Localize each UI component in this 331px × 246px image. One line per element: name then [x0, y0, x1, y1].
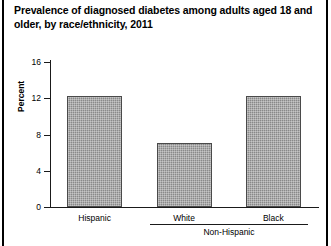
y-axis-tick-label: 0 [5, 203, 41, 212]
page-rule-left [2, 0, 4, 246]
x-axis-line [50, 207, 319, 208]
page-rule-right [326, 0, 328, 246]
bar [157, 143, 212, 207]
bar [246, 96, 301, 207]
y-axis-tick-label: 16 [5, 58, 41, 67]
group-bracket-label: Non-Hispanic [169, 227, 289, 237]
y-axis-tick-label-wrap: 4 [0, 171, 41, 172]
y-axis-tick-label-wrap: 8 [0, 135, 41, 136]
chart-title: Prevalence of diagnosed diabetes among a… [14, 3, 314, 31]
y-axis-tick [44, 207, 51, 208]
x-axis-category-label: Black [213, 213, 331, 223]
group-bracket-rule [150, 224, 308, 225]
bar [67, 96, 122, 207]
y-axis-tick-label-wrap: 16 [0, 62, 41, 63]
plot-area [50, 62, 318, 207]
y-axis-tick-label: 12 [5, 94, 41, 103]
y-axis-tick-label: 8 [5, 131, 41, 140]
chart-figure: Prevalence of diagnosed diabetes among a… [0, 0, 331, 246]
y-axis-tick-label: 4 [5, 167, 41, 176]
y-axis-tick-label-wrap: 0 [0, 207, 41, 208]
y-axis-tick-label-wrap: 12 [0, 98, 41, 99]
